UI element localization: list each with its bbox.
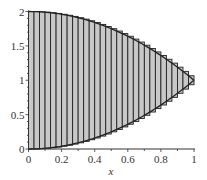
strip (34, 12, 40, 149)
x-axis-label: x (108, 165, 114, 177)
strip (89, 21, 95, 140)
strip (73, 16, 79, 144)
strip (106, 26, 112, 134)
strip (172, 63, 178, 97)
x-tick-label: 0.2 (55, 153, 69, 165)
x-tick-label: 0.4 (88, 153, 102, 165)
strip (111, 29, 117, 132)
strip (100, 24, 106, 136)
strip (56, 13, 62, 147)
strip (166, 59, 172, 101)
strip (45, 12, 51, 148)
strip (155, 52, 161, 109)
strip (133, 39, 139, 121)
strip (95, 23, 101, 139)
x-tick-label: 1 (191, 153, 197, 165)
strip (62, 14, 68, 146)
strip (117, 31, 123, 129)
strip (40, 12, 46, 149)
x-axis-ticks: 00.20.40.60.81 (26, 149, 197, 165)
strip (150, 48, 156, 112)
y-tick-label: 2 (19, 6, 25, 18)
x-tick-label: 0.6 (121, 153, 135, 165)
vertical-strips (29, 12, 195, 150)
strip (78, 18, 84, 143)
strip (29, 12, 35, 150)
strip (84, 19, 90, 141)
x-tick-label: 0.8 (154, 153, 168, 165)
strip (144, 45, 150, 115)
y-tick-label: 0.5 (11, 109, 25, 121)
region-plot: 00.20.40.60.81 00.511.52 x (0, 0, 207, 180)
strip (122, 34, 128, 127)
y-tick-label: 1 (19, 74, 25, 86)
strip (128, 36, 134, 124)
y-tick-label: 0 (19, 143, 25, 155)
strip (67, 15, 73, 145)
strip (139, 42, 145, 118)
x-tick-label: 0 (26, 153, 32, 165)
strip (161, 56, 167, 106)
y-tick-label: 1.5 (11, 40, 25, 52)
strip (51, 13, 57, 148)
y-axis-ticks: 00.511.52 (11, 6, 29, 156)
